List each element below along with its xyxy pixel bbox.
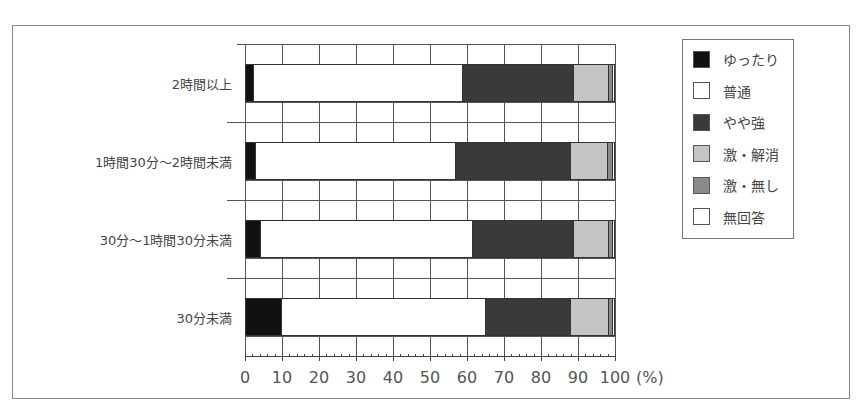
bar-segment xyxy=(245,64,254,102)
x-axis-tick-label: 0 xyxy=(240,368,250,387)
minor-tick xyxy=(408,354,409,357)
minor-tick xyxy=(386,354,387,357)
minor-tick xyxy=(400,354,401,357)
minor-tick xyxy=(260,354,261,357)
x-axis-unit-label: (%) xyxy=(636,368,664,387)
minor-tick xyxy=(289,354,290,357)
gridline-vertical xyxy=(615,44,616,356)
minor-tick xyxy=(489,354,490,357)
minor-tick xyxy=(497,354,498,357)
legend-label: 激・解消 xyxy=(723,144,779,164)
minor-tick xyxy=(304,354,305,357)
x-axis-tick-label: 90 xyxy=(568,368,588,387)
x-axis-tick-label: 20 xyxy=(309,368,329,387)
bar-segment xyxy=(613,298,615,336)
minor-tick xyxy=(267,354,268,357)
minor-tick xyxy=(548,354,549,357)
minor-tick xyxy=(326,354,327,357)
minor-tick xyxy=(526,354,527,357)
bar-segment xyxy=(571,298,610,336)
legend-label: ゆったり xyxy=(723,49,779,69)
bar-segment xyxy=(613,64,615,102)
x-axis-tick-label: 100 xyxy=(600,368,631,387)
minor-tick xyxy=(378,354,379,357)
legend-item: 激・解消 xyxy=(693,144,779,164)
legend-swatch-icon xyxy=(693,208,710,225)
bar-segment xyxy=(571,142,608,180)
major-tick xyxy=(356,353,357,361)
legend-label: やや強 xyxy=(723,112,765,132)
minor-tick xyxy=(571,354,572,357)
bar-row xyxy=(245,142,615,180)
minor-tick xyxy=(415,354,416,357)
major-tick xyxy=(282,353,283,361)
minor-tick xyxy=(297,354,298,357)
bar-segment xyxy=(282,298,486,336)
legend-swatch-icon xyxy=(693,51,710,68)
minor-tick xyxy=(593,354,594,357)
bar-segment xyxy=(456,142,571,180)
minor-tick xyxy=(275,354,276,357)
legend: ゆったり普通やや強激・解消激・無し無回答 xyxy=(682,39,794,239)
minor-tick xyxy=(563,354,564,357)
major-tick xyxy=(245,353,246,361)
bar-segment xyxy=(486,298,571,336)
x-axis-tick-label: 70 xyxy=(494,368,514,387)
x-axis-tick-label: 50 xyxy=(420,368,440,387)
minor-tick xyxy=(474,354,475,357)
major-tick xyxy=(578,353,579,361)
bar-row xyxy=(245,220,615,258)
category-label: 30分未満 xyxy=(176,308,232,327)
legend-item: 普通 xyxy=(693,81,751,101)
x-axis-tick-label: 60 xyxy=(457,368,477,387)
minor-tick xyxy=(534,354,535,357)
legend-label: 普通 xyxy=(723,81,751,101)
minor-tick xyxy=(482,354,483,357)
minor-tick xyxy=(600,354,601,357)
bar-segment xyxy=(256,142,456,180)
category-separator-line xyxy=(237,44,615,45)
category-label: 2時間以上 xyxy=(172,74,232,93)
legend-item: 激・無し xyxy=(693,175,779,195)
plot-area xyxy=(245,44,615,356)
minor-tick xyxy=(437,354,438,357)
minor-tick xyxy=(334,354,335,357)
major-tick xyxy=(430,353,431,361)
legend-label: 激・無し xyxy=(723,175,779,195)
minor-tick xyxy=(452,354,453,357)
legend-swatch-icon xyxy=(693,177,710,194)
major-tick xyxy=(541,353,542,361)
bar-segment xyxy=(574,64,609,102)
minor-tick xyxy=(556,354,557,357)
legend-swatch-icon xyxy=(693,114,710,131)
x-axis-tick-label: 80 xyxy=(531,368,551,387)
legend-swatch-icon xyxy=(693,145,710,162)
x-axis xyxy=(245,356,616,357)
minor-tick xyxy=(585,354,586,357)
bar-row xyxy=(245,298,615,336)
legend-item: やや強 xyxy=(693,112,765,132)
bar-segment xyxy=(613,220,615,258)
major-tick xyxy=(504,353,505,361)
bar-segment xyxy=(463,64,574,102)
x-axis-tick-label: 10 xyxy=(272,368,292,387)
category-label: 30分～1時間30分未満 xyxy=(100,230,232,249)
major-tick xyxy=(393,353,394,361)
category-separator-line xyxy=(227,122,615,123)
minor-tick xyxy=(363,354,364,357)
bar-segment xyxy=(473,220,575,258)
x-axis-tick-label: 30 xyxy=(346,368,366,387)
bar-segment xyxy=(574,220,609,258)
minor-tick xyxy=(519,354,520,357)
bar-segment xyxy=(245,142,256,180)
legend-label: 無回答 xyxy=(723,207,765,227)
legend-item: 無回答 xyxy=(693,207,765,227)
bar-segment xyxy=(245,220,261,258)
legend-swatch-icon xyxy=(693,82,710,99)
minor-tick xyxy=(252,354,253,357)
bar-segment xyxy=(254,64,463,102)
bar-segment xyxy=(613,142,615,180)
bar-row xyxy=(245,64,615,102)
major-tick xyxy=(615,353,616,361)
major-tick xyxy=(319,353,320,361)
